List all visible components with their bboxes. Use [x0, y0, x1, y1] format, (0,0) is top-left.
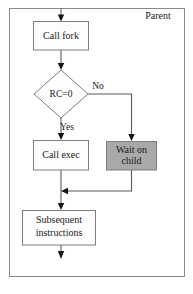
arrowhead-rc-check-no-to-wait-child [128, 134, 134, 141]
node-rc-check-label: RC=0 [50, 89, 73, 99]
branch-label-no: No [92, 81, 104, 91]
node-wait-child-label-line2: child [122, 155, 142, 166]
parent-frame-label: Parent [145, 10, 171, 21]
node-call-fork-label: Call fork [43, 30, 79, 41]
arrowhead-exit [58, 251, 64, 259]
node-call-exec-label: Call exec [42, 149, 80, 160]
edge-rc-check-no-to-wait-child [88, 94, 132, 138]
branch-label-yes: Yes [60, 122, 74, 132]
arrowhead-entry-to-call-fork [58, 15, 64, 22]
arrowhead-merge-to-subsequent [58, 203, 64, 210]
arrowhead-call-fork-to-rc-check [58, 63, 64, 70]
arrowhead-wait-child-to-merge [61, 188, 68, 194]
node-wait-child-label-line1: Wait on [116, 144, 147, 155]
arrowhead-rc-check-yes-to-call-exec [58, 133, 64, 140]
flowchart-svg: Parent No Yes Call fork RC [0, 0, 193, 294]
flowchart-canvas: Parent No Yes Call fork RC [0, 0, 193, 294]
edge-wait-child-to-merge [64, 170, 132, 191]
node-subsequent-instructions-label-line1: Subsequent [36, 214, 82, 225]
node-subsequent-instructions-label-line2: instructions [36, 227, 83, 238]
